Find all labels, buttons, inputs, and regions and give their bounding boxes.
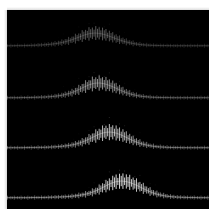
- figure-right-margin: [209, 7, 220, 209]
- plot-area: [7, 10, 209, 209]
- waveform-figure: [0, 0, 220, 209]
- waveform-canvas: [7, 10, 209, 209]
